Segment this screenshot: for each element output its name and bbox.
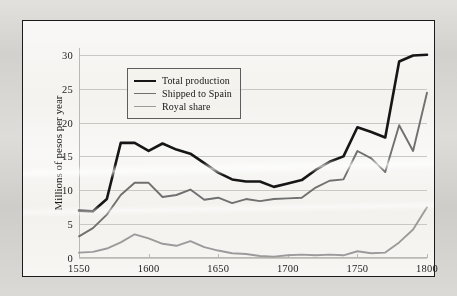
x-tick-label: 1600	[138, 263, 160, 274]
x-tick-label: 1800	[416, 263, 438, 274]
y-tick-label: 15	[62, 151, 73, 162]
scanned-page: Millions of pesos per year 051015202530 …	[0, 0, 457, 296]
x-tick-label: 1650	[207, 263, 229, 274]
y-tick-label: 30	[62, 49, 73, 60]
chart-legend: Total productionShipped to SpainRoyal sh…	[127, 68, 241, 119]
legend-item: Total production	[134, 74, 232, 87]
legend-item: Shipped to Spain	[134, 87, 232, 100]
y-tick-label: 10	[62, 185, 73, 196]
legend-swatch	[134, 93, 156, 94]
legend-item: Royal share	[134, 100, 232, 113]
y-tick-label: 25	[62, 83, 73, 94]
legend-label: Total production	[162, 75, 230, 86]
y-tick-label: 5	[68, 219, 73, 230]
series-line	[79, 207, 427, 256]
legend-label: Royal share	[162, 101, 211, 112]
x-tick-label: 1700	[277, 263, 299, 274]
gridline	[79, 258, 427, 259]
legend-label: Shipped to Spain	[162, 88, 232, 99]
y-tick-label: 20	[62, 117, 73, 128]
x-tick-label: 1550	[68, 263, 90, 274]
legend-swatch	[134, 106, 156, 107]
legend-swatch	[134, 80, 156, 82]
x-tick-mark	[427, 254, 428, 258]
x-tick-label: 1750	[346, 263, 368, 274]
y-tick-label: 0	[68, 253, 73, 264]
figure-frame: Millions of pesos per year 051015202530 …	[22, 20, 435, 277]
